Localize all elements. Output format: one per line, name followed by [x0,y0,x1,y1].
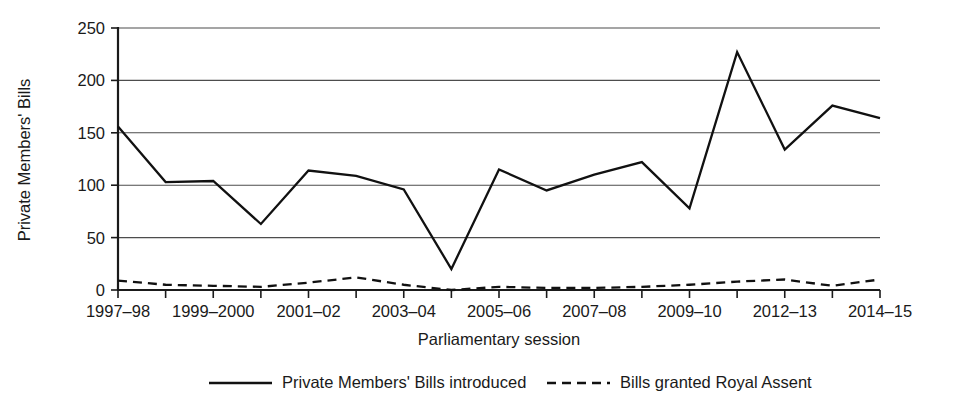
line-chart: 050100150200250 1997–981999–20002001–022… [0,0,980,420]
chart-legend: Private Members' Bills introduced Bills … [209,373,812,391]
y-tick-label: 200 [77,71,105,89]
x-axis-title: Parliamentary session [418,330,580,348]
x-tick-label: 1997–98 [86,302,150,320]
x-tick-label: 2007–08 [562,302,626,320]
y-tick-label: 0 [96,281,105,299]
y-tick-label: 50 [87,229,105,247]
x-tick-label: 2005–06 [467,302,531,320]
series-bills-granted-royal-assent [118,277,880,290]
chart-figure: 050100150200250 1997–981999–20002001–022… [0,0,980,420]
y-axis-title: Private Members' Bills [15,79,33,242]
x-axis-ticks-group [118,290,880,298]
y-tick-label: 150 [77,124,105,142]
x-tick-label: 2003–04 [372,302,436,320]
series-private-members-bills-introduced [118,52,880,269]
x-tick-label: 2009–10 [657,302,721,320]
y-axis-tick-labels-group: 050100150200250 [77,19,105,299]
x-tick-label: 2001–02 [276,302,340,320]
legend-label-royal-assent: Bills granted Royal Assent [620,373,812,391]
x-tick-label: 1999–2000 [172,302,255,320]
x-axis-tick-labels-group: 1997–981999–20002001–022003–042005–06200… [86,302,912,320]
x-tick-label: 2014–15 [848,302,912,320]
x-tick-label: 2012–13 [753,302,817,320]
legend-label-introduced: Private Members' Bills introduced [282,373,526,391]
y-tick-label: 250 [77,19,105,37]
y-tick-label: 100 [77,176,105,194]
gridlines-group [118,28,880,290]
